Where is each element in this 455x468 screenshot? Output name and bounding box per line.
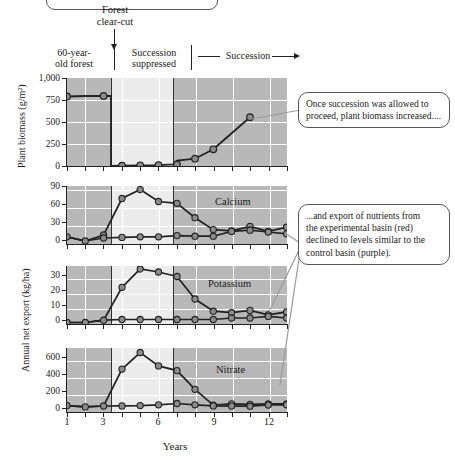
- callout-line: declined to levels similar to the: [306, 234, 442, 246]
- callout-line: ...and export of nutrients from: [306, 210, 442, 222]
- figure-root: Forest clear-cut 60-year- old forest Suc…: [0, 0, 455, 468]
- callout-plant-biomass: Once succession was allowed to proceed, …: [298, 92, 450, 128]
- callout-line: the experimental basin (red): [306, 222, 442, 234]
- callout-line: proceed, plant biomass increased....: [306, 110, 442, 122]
- callout-line: control basin (purple).: [306, 247, 442, 259]
- callout-nutrient-export: ...and export of nutrients from the expe…: [298, 204, 450, 265]
- callout-line: Once succession was allowed to: [306, 98, 442, 110]
